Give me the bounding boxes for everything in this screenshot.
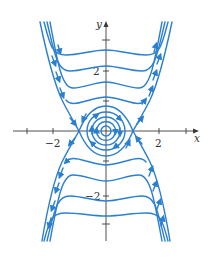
x-tick-label: 2	[155, 137, 162, 149]
y-axis-label: y	[95, 18, 103, 30]
axes: y x −2 2 2 −2	[13, 18, 200, 241]
y-axis-arrow-icon	[104, 21, 109, 27]
x-axis-label: x	[194, 132, 200, 144]
phase-portrait: y x −2 2 2 −2	[0, 0, 212, 259]
x-tick-label: −2	[45, 137, 60, 149]
